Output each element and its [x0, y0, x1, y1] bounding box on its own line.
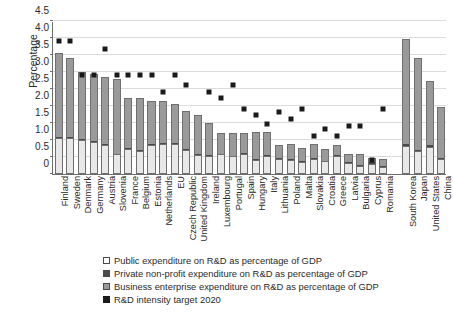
- bar-column: [252, 132, 260, 175]
- bar-segment: [147, 145, 155, 174]
- bar-segment: [287, 144, 295, 159]
- bar-segment: [344, 154, 352, 163]
- bar-column: [78, 72, 86, 174]
- x-tick-label: United States: [432, 176, 441, 231]
- y-tick-label: 3.5: [35, 39, 53, 50]
- chart-legend: Public expenditure on R&D as percentage …: [103, 254, 443, 306]
- bar-segment: [194, 155, 202, 174]
- bar-segment: [205, 156, 213, 174]
- legend-item: Business enterprise expenditure on R&D a…: [103, 280, 443, 293]
- target-marker: [323, 126, 328, 131]
- bar-column: [426, 81, 434, 175]
- target-marker: [103, 46, 108, 51]
- bar-segment: [66, 58, 74, 136]
- bar-segment: [136, 151, 144, 174]
- x-tick-label: Italy: [270, 176, 279, 193]
- x-axis-labels: FinlandSwedenDenmarkGermanyAustriaSloven…: [52, 176, 446, 254]
- bar-segment: [402, 39, 410, 144]
- bar-column: [147, 101, 155, 174]
- bar-column: [55, 53, 63, 174]
- rd-expenditure-chart: Percentage 00.51.01.52.02.53.03.54.04.5 …: [0, 0, 453, 317]
- target-marker: [242, 106, 247, 111]
- bar-column: [298, 148, 306, 174]
- bar-column: [321, 149, 329, 175]
- bar-segment: [55, 138, 63, 174]
- bar-segment: [90, 74, 98, 141]
- target-marker: [311, 133, 316, 138]
- x-tick-label: Portugal: [235, 176, 244, 210]
- bar-segment: [101, 77, 109, 144]
- x-tick-label: Slovenia: [119, 176, 128, 211]
- bar-column: [101, 77, 109, 174]
- y-tick-label: 2.0: [35, 90, 53, 101]
- bar-segment: [368, 164, 376, 174]
- bar-segment: [437, 107, 445, 159]
- bar-segment: [321, 149, 329, 161]
- bar-segment: [344, 163, 352, 174]
- x-tick-label: Netherlands: [165, 176, 174, 226]
- target-marker: [184, 82, 189, 87]
- bar-segment: [252, 132, 260, 159]
- bar-segment: [356, 166, 364, 174]
- bar-column: [159, 101, 167, 174]
- x-tick-label: Finland: [61, 176, 70, 206]
- bar-segment: [263, 156, 271, 174]
- target-marker: [230, 82, 235, 87]
- x-tick-label: Malta: [305, 176, 314, 198]
- target-marker: [288, 116, 293, 121]
- bar-segment: [101, 145, 109, 174]
- bar-segment: [90, 142, 98, 174]
- bar-segment: [182, 111, 190, 149]
- bar-segment: [414, 58, 422, 149]
- x-tick-label: Belgium: [142, 176, 151, 209]
- bar-segment: [310, 159, 318, 174]
- bar-segment: [287, 160, 295, 174]
- bar-segment: [426, 81, 434, 146]
- y-tick-label: 3.0: [35, 56, 53, 67]
- y-tick-mark: [50, 20, 53, 21]
- bar-series-group: [53, 22, 446, 174]
- bar-segment: [159, 101, 167, 143]
- bar-column: [379, 159, 387, 174]
- bar-segment: [298, 162, 306, 174]
- target-marker: [56, 38, 61, 43]
- y-tick-label: 1.0: [35, 124, 53, 135]
- bar-column: [356, 154, 364, 174]
- y-tick-label: 4.5: [35, 5, 53, 16]
- bar-column: [275, 145, 283, 174]
- bar-column: [66, 58, 74, 174]
- public-swatch: [103, 257, 110, 264]
- x-tick-label: Austria: [108, 176, 117, 205]
- bar-segment: [78, 72, 86, 139]
- bar-segment: [275, 159, 283, 174]
- bar-segment: [229, 133, 237, 155]
- bar-segment: [333, 156, 341, 174]
- target-marker: [276, 109, 281, 114]
- bar-segment: [66, 138, 74, 174]
- x-tick-label: Croatia: [328, 176, 337, 206]
- bar-segment: [379, 167, 387, 174]
- bar-segment: [205, 123, 213, 155]
- bar-segment: [310, 144, 318, 158]
- bar-segment: [229, 156, 237, 174]
- bar-segment: [159, 144, 167, 174]
- bar-column: [229, 133, 237, 174]
- y-tick-label: 2.5: [35, 73, 53, 84]
- target-marker: [79, 72, 84, 77]
- x-tick-label: Latvia: [351, 176, 360, 201]
- bar-segment: [240, 133, 248, 154]
- bar-segment: [356, 154, 364, 166]
- x-tick-label: Lithuania: [281, 176, 290, 213]
- bar-segment: [147, 101, 155, 144]
- bar-segment: [194, 115, 202, 153]
- business-swatch: [103, 283, 110, 290]
- bar-column: [124, 98, 132, 175]
- x-tick-label: France: [131, 176, 140, 205]
- target-marker: [68, 38, 73, 43]
- bar-segment: [136, 98, 144, 151]
- bar-column: [240, 133, 248, 174]
- y-tick-label: 4.0: [35, 22, 53, 33]
- x-tick-label: Greece: [339, 176, 348, 206]
- x-tick-label: United Kingdom: [200, 176, 209, 241]
- bar-column: [205, 123, 213, 174]
